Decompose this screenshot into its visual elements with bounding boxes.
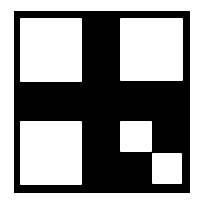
- white-square-bottom-right-small-2: [152, 153, 182, 184]
- white-square-bottom-left: [20, 121, 82, 185]
- white-square-top-right: [120, 18, 183, 81]
- white-square-top-left: [20, 18, 82, 82]
- white-square-bottom-right-small-1: [120, 121, 152, 152]
